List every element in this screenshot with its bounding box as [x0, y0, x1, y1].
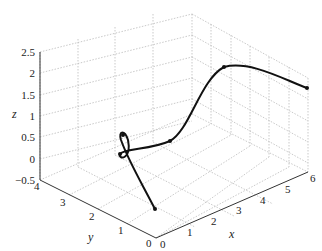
svg-text:1.5: 1.5	[21, 89, 35, 101]
curve	[118, 65, 309, 211]
svg-text:0: 0	[30, 153, 36, 165]
svg-text:3: 3	[60, 196, 66, 208]
y-ticks: 4 3 2 1 0 y	[34, 180, 152, 249]
svg-text:3: 3	[236, 204, 242, 216]
svg-text:2.5: 2.5	[21, 46, 35, 58]
z-ticks: 2.5 2 1.5 1 0.5 0 −0.5 z	[11, 46, 36, 186]
svg-text:−0.5: −0.5	[15, 174, 35, 186]
svg-text:1: 1	[118, 224, 124, 236]
svg-text:6: 6	[310, 172, 316, 184]
svg-text:2: 2	[211, 215, 217, 227]
svg-text:0.5: 0.5	[21, 131, 35, 143]
svg-text:1: 1	[30, 110, 36, 122]
axes	[40, 52, 308, 238]
svg-text:x: x	[228, 227, 235, 241]
svg-text:z: z	[11, 107, 17, 121]
svg-text:y: y	[87, 230, 94, 244]
svg-text:2: 2	[89, 210, 95, 222]
svg-text:2: 2	[30, 67, 36, 79]
3d-line-plot: 2.5 2 1.5 1 0.5 0 −0.5 z 4 3 2 1 0 y 0 1…	[0, 0, 322, 251]
svg-text:5: 5	[285, 183, 291, 195]
svg-text:4: 4	[260, 194, 266, 206]
svg-text:0: 0	[160, 238, 166, 250]
grid	[40, 14, 308, 238]
x-ticks: 0 1 2 3 4 5 6 x	[160, 172, 316, 250]
svg-text:1: 1	[187, 226, 193, 238]
svg-text:4: 4	[34, 180, 40, 192]
svg-text:0: 0	[146, 237, 152, 249]
